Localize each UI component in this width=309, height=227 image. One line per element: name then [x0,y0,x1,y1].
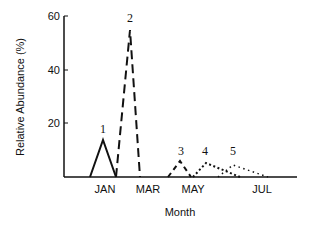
chart: 60 40 20 JAN MAR MAY JUL Month Relative … [0,0,309,227]
series-label: 3 [178,144,184,158]
ytick: 40 [48,64,60,76]
y-axis-label: Relative Abundance (%) [14,38,26,156]
xtick: MAY [181,183,205,195]
series-label: 4 [202,144,208,158]
line-chart: 60 40 20 JAN MAR MAY JUL Month Relative … [0,0,309,227]
series-label: 2 [127,11,133,25]
xtick: MAR [136,183,161,195]
series-label: 1 [100,122,106,136]
xtick: JUL [252,183,272,195]
x-axis-label: Month [165,206,196,218]
xtick: JAN [95,183,116,195]
series-label: 5 [230,144,236,158]
ytick: 20 [48,117,60,129]
ytick: 60 [48,10,60,22]
